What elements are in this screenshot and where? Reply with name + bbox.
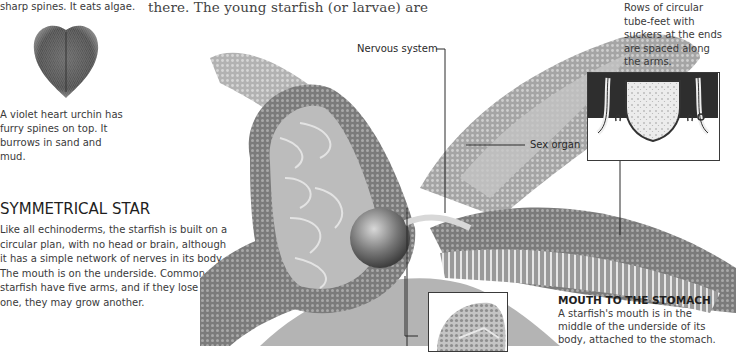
caption-line: suckers at the ends bbox=[624, 28, 736, 42]
symmetrical-star-body: Like all echinoderms, the starfish is bu… bbox=[0, 223, 230, 310]
main-text-top-line: there. The young starfish (or larvae) ar… bbox=[148, 0, 428, 15]
body-line: starfish have five arms, and if they los… bbox=[0, 281, 230, 296]
tube-feet-cross-section-inset bbox=[587, 72, 720, 161]
body-line: body, attached to the stomach. bbox=[558, 333, 736, 346]
body-line: A starfish's mouth is in the bbox=[558, 307, 736, 320]
caption-line: tube-feet with bbox=[624, 15, 736, 29]
urchin-caption: A violet heart urchin has furry spines o… bbox=[0, 108, 130, 164]
body-line: one, they may grow another. bbox=[0, 296, 230, 311]
urchin-caption-line: burrows in sand and mud. bbox=[0, 136, 130, 164]
caption-line: are spaced along bbox=[624, 42, 736, 56]
body-line: middle of the underside of its bbox=[558, 320, 736, 333]
label-sex-organ: Sex organ bbox=[530, 139, 580, 150]
urchin-previous-caption: sharp spines. It eats algae. bbox=[0, 0, 135, 14]
body-line: it has a simple network of nerves in its… bbox=[0, 252, 230, 267]
body-line: circular plan, with no head or brain, al… bbox=[0, 238, 230, 253]
caption-line: Rows of circular bbox=[624, 1, 736, 15]
caption-fragment: sharp spines. It eats algae. bbox=[0, 1, 135, 12]
body-line: Like all echinoderms, the starfish is bu… bbox=[0, 223, 230, 238]
label-nervous-system: Nervous system bbox=[357, 43, 438, 54]
violet-heart-urchin-illustration bbox=[30, 22, 102, 100]
urchin-caption-line: furry spines on top. It bbox=[0, 122, 130, 136]
starfish-mouth-inset bbox=[428, 292, 508, 352]
tube-feet-caption: Rows of circular tube-feet with suckers … bbox=[624, 1, 736, 69]
caption-line: the arms. bbox=[624, 55, 736, 69]
urchin-caption-line: A violet heart urchin has bbox=[0, 108, 130, 122]
body-line: The mouth is on the underside. Common bbox=[0, 267, 230, 282]
section-heading-symmetrical-star: SYMMETRICAL STAR bbox=[0, 200, 150, 218]
section-heading-mouth-to-stomach: MOUTH TO THE STOMACH bbox=[558, 294, 711, 306]
mouth-to-stomach-body: A starfish's mouth is in the middle of t… bbox=[558, 307, 736, 346]
